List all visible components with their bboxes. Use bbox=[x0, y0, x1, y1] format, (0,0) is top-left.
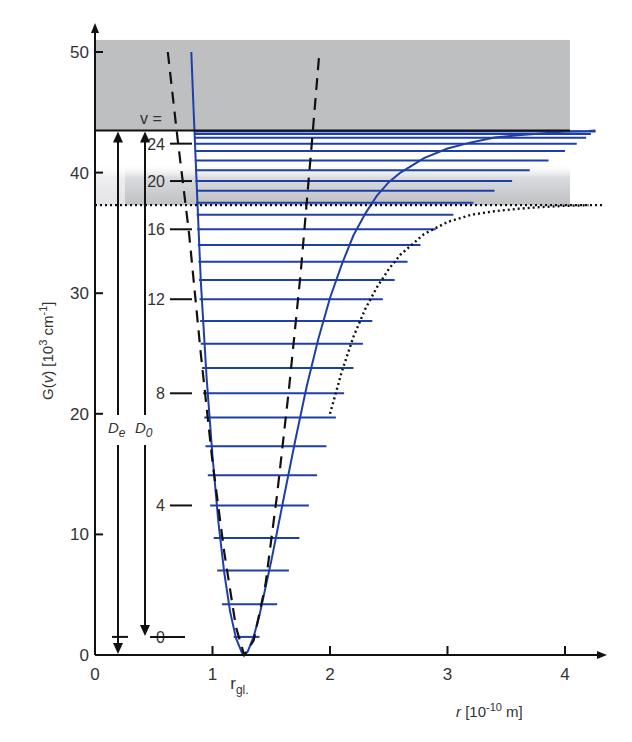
x-tick-label: 1 bbox=[208, 665, 217, 684]
v-level-label: 16 bbox=[147, 221, 165, 238]
potential-curves bbox=[168, 52, 596, 655]
x-axis-title: r [10-10 m] bbox=[456, 701, 523, 720]
x-tick-label: 4 bbox=[560, 665, 569, 684]
v-level-label: 12 bbox=[147, 291, 165, 308]
morse-potential-curve bbox=[191, 52, 595, 655]
De-label: De bbox=[108, 419, 126, 440]
v-level-label: 20 bbox=[147, 173, 165, 190]
v-equals-label: v = bbox=[140, 110, 162, 127]
y-tick-label: 40 bbox=[70, 164, 89, 183]
v-level-label: 4 bbox=[156, 497, 165, 514]
v-level-label: 8 bbox=[156, 385, 165, 402]
harmonic-potential-curve bbox=[168, 52, 320, 655]
dotted-potential-curve bbox=[330, 205, 589, 414]
D0-label: D0 bbox=[135, 419, 153, 440]
y-tick-label: 10 bbox=[70, 525, 89, 544]
y-tick-label: 30 bbox=[70, 284, 89, 303]
continuum-region bbox=[95, 40, 570, 130]
x-tick-label: 0 bbox=[90, 665, 99, 684]
y-axis-title: G(v) [103 cm-1] bbox=[37, 302, 56, 400]
v-level-label: 24 bbox=[147, 136, 165, 153]
y-tick-label: 50 bbox=[70, 43, 89, 62]
potential-energy-chart: 0102030405001234r [10-10 m]G(v) [103 cm-… bbox=[0, 0, 632, 742]
r-equilibrium-label: rgl. bbox=[230, 674, 248, 697]
x-tick-label: 2 bbox=[325, 665, 334, 684]
x-tick-label: 3 bbox=[443, 665, 452, 684]
y-tick-label: 20 bbox=[70, 405, 89, 424]
y-tick-label: 0 bbox=[80, 646, 89, 665]
vibrational-levels bbox=[195, 132, 596, 637]
